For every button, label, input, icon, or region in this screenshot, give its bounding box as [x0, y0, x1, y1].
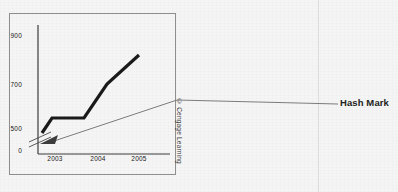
x-tick-label-2005: 2005	[124, 155, 154, 162]
line-chart	[10, 14, 177, 176]
hash-mark-callout-label: Hash Mark	[340, 97, 389, 108]
page-margin-rule	[318, 0, 319, 192]
x-tick-label-2003: 2003	[40, 155, 70, 162]
x-tick-label-2004: 2004	[83, 155, 113, 162]
y-tick-label-900: 900	[0, 32, 22, 39]
data-series-line	[42, 55, 139, 133]
y-tick-label-700: 700	[0, 81, 22, 88]
y-tick-label-0: 0	[0, 147, 22, 154]
y-tick-label-500: 500	[0, 125, 22, 132]
hash-mark-icon	[29, 132, 51, 147]
copyright-credit: © Cengage Learning	[176, 98, 183, 164]
chart-frame	[9, 13, 176, 175]
figure-page: 900 700 500 0 2003 2004 2005 © Cengage L…	[0, 0, 398, 192]
